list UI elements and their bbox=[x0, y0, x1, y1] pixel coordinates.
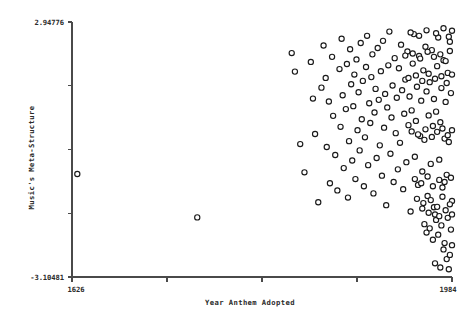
data-point bbox=[374, 155, 379, 160]
data-point bbox=[321, 43, 326, 48]
data-point bbox=[394, 95, 399, 100]
data-point bbox=[378, 69, 383, 74]
data-point bbox=[348, 47, 353, 52]
data-point bbox=[407, 94, 412, 99]
data-point bbox=[413, 118, 418, 123]
data-point bbox=[447, 252, 452, 257]
data-point bbox=[433, 109, 438, 114]
data-point bbox=[443, 58, 448, 63]
data-point bbox=[442, 240, 447, 245]
data-point bbox=[444, 80, 449, 85]
data-point bbox=[398, 42, 403, 47]
data-point bbox=[447, 48, 452, 53]
data-point bbox=[319, 85, 324, 90]
data-point bbox=[426, 71, 431, 76]
data-point bbox=[440, 194, 445, 199]
data-point bbox=[384, 203, 389, 208]
data-point bbox=[420, 169, 425, 174]
data-point bbox=[195, 215, 200, 220]
data-point bbox=[356, 90, 361, 95]
data-point bbox=[326, 99, 331, 104]
data-point bbox=[433, 31, 438, 36]
data-point bbox=[424, 89, 429, 94]
data-point bbox=[431, 96, 436, 101]
data-point bbox=[435, 129, 440, 134]
data-point bbox=[329, 54, 334, 59]
data-point bbox=[289, 50, 294, 55]
data-point bbox=[413, 73, 418, 78]
data-point bbox=[383, 91, 388, 96]
data-point bbox=[406, 75, 411, 80]
data-point bbox=[428, 161, 433, 166]
data-point-group bbox=[75, 26, 455, 272]
data-point bbox=[341, 166, 346, 171]
data-point bbox=[349, 82, 354, 87]
data-point bbox=[426, 210, 431, 215]
data-point bbox=[343, 107, 348, 112]
data-point bbox=[323, 75, 328, 80]
data-point bbox=[449, 243, 454, 248]
data-point bbox=[438, 265, 443, 270]
data-point bbox=[419, 181, 424, 186]
data-point bbox=[381, 125, 386, 130]
data-point bbox=[377, 143, 382, 148]
data-point bbox=[345, 195, 350, 200]
data-point bbox=[339, 36, 344, 41]
data-point bbox=[448, 91, 453, 96]
data-point bbox=[379, 173, 384, 178]
data-point bbox=[448, 175, 453, 180]
data-point bbox=[425, 174, 430, 179]
data-point bbox=[439, 223, 444, 228]
data-point bbox=[440, 126, 445, 131]
data-point bbox=[373, 86, 378, 91]
data-point bbox=[354, 57, 359, 62]
data-point bbox=[358, 40, 363, 45]
data-point bbox=[440, 185, 445, 190]
data-point bbox=[387, 29, 392, 34]
data-point bbox=[445, 133, 450, 138]
data-point bbox=[423, 44, 428, 49]
data-point bbox=[416, 33, 421, 38]
plot-canvas: 2.94776-3.1048116261984Year Anthem Adopt… bbox=[0, 0, 467, 322]
data-point bbox=[375, 45, 380, 50]
data-point bbox=[75, 171, 80, 176]
data-point bbox=[448, 227, 453, 232]
data-point bbox=[429, 134, 434, 139]
data-point bbox=[424, 28, 429, 33]
data-point bbox=[437, 177, 442, 182]
data-point bbox=[449, 72, 454, 77]
data-point bbox=[392, 56, 397, 61]
data-point bbox=[414, 84, 419, 89]
data-point bbox=[449, 128, 454, 133]
data-point bbox=[431, 54, 436, 59]
data-point bbox=[420, 78, 425, 83]
data-point bbox=[408, 30, 413, 35]
data-point bbox=[344, 61, 349, 66]
y-axis-title: Music's Meta-Structure bbox=[27, 105, 36, 209]
data-point bbox=[372, 110, 377, 115]
data-point bbox=[418, 56, 423, 61]
data-point bbox=[421, 200, 426, 205]
data-point bbox=[446, 34, 451, 39]
data-point bbox=[409, 129, 414, 134]
data-point bbox=[364, 33, 369, 38]
data-point bbox=[352, 72, 357, 77]
data-point bbox=[423, 127, 428, 132]
data-point bbox=[421, 68, 426, 73]
data-point bbox=[439, 85, 444, 90]
y-tick-label-min: -3.10481 bbox=[30, 273, 64, 282]
data-point bbox=[346, 139, 351, 144]
data-point bbox=[410, 61, 415, 66]
data-point bbox=[362, 135, 367, 140]
data-point bbox=[388, 151, 393, 156]
data-point bbox=[376, 97, 381, 102]
data-point bbox=[441, 26, 446, 31]
data-point bbox=[310, 96, 315, 101]
data-point bbox=[393, 131, 398, 136]
data-point bbox=[435, 204, 440, 209]
data-point bbox=[391, 179, 396, 184]
data-point bbox=[324, 144, 329, 149]
data-point bbox=[410, 51, 415, 56]
x-tick-label-min: 1626 bbox=[68, 285, 85, 294]
data-point bbox=[401, 187, 406, 192]
